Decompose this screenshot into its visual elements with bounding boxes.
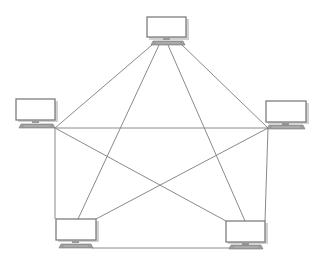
link-right-bottom-left (96, 128, 268, 219)
computer-icon (56, 219, 99, 248)
diagram-canvas (0, 0, 325, 266)
computer-icon (266, 101, 309, 129)
link-top-left (55, 45, 152, 128)
link-top-bottom-right (168, 45, 245, 221)
link-top-bottom-left (78, 45, 159, 219)
mesh-network-diagram (0, 0, 325, 266)
computer-icon (147, 17, 189, 45)
computer-icon (16, 99, 58, 128)
link-left-bottom-right (55, 128, 226, 221)
link-top-right (182, 45, 268, 128)
network-links (55, 45, 268, 248)
link-right-bottom-right (265, 128, 268, 221)
computer-icon (226, 221, 268, 249)
